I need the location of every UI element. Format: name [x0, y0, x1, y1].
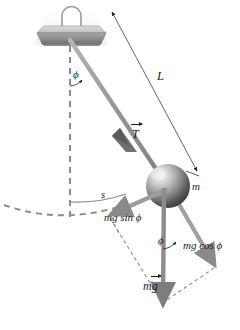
- arc-length-label: s: [101, 190, 105, 201]
- pendulum-string: [70, 40, 170, 190]
- gravity-symbol: g: [152, 279, 158, 293]
- tension-label: T: [132, 128, 240, 140]
- vector-arrow-tip: [158, 274, 162, 278]
- bob-specular-highlight: [150, 168, 167, 181]
- mount-top-face: [37, 26, 106, 33]
- tangential-component-label: mg sin ϕ: [104, 212, 141, 223]
- length-tick-near-bob: [186, 171, 199, 176]
- tension-vector-glyph: T: [132, 128, 139, 140]
- weight-label: m g: [143, 280, 240, 292]
- mass-label: m: [192, 181, 200, 192]
- gravity-vector-glyph: g: [152, 280, 158, 292]
- top-angle-arc: [70, 80, 82, 86]
- length-label: L: [157, 70, 164, 83]
- pendulum-bob: [146, 164, 190, 208]
- tension-symbol: T: [132, 127, 139, 141]
- pendulum-force-diagram: ϕ L T m s mg sin ϕ ϕ mg cos ϕ m g: [0, 0, 240, 330]
- bottom-angle-label: ϕ: [158, 235, 164, 246]
- vector-arrow-tip: [139, 122, 143, 126]
- top-angle-label: ϕ: [73, 69, 79, 80]
- radial-component-label: mg cos ϕ: [183, 240, 222, 251]
- arc-length-s-curve: [71, 194, 126, 202]
- weight-mass-symbol: m: [143, 279, 152, 293]
- construction-stub: [114, 224, 119, 233]
